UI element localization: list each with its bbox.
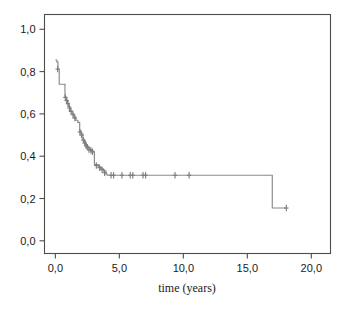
kaplan-meier-plot: 0,05,010,015,020,0 0,00,20,40,60,81,0 ti… — [0, 0, 346, 310]
y-tick-label: 0,2 — [20, 193, 35, 205]
x-axis-tick-labels: 0,05,010,015,020,0 — [48, 262, 322, 274]
y-tick-label: 0,8 — [20, 66, 35, 78]
survival-chart-figure: 0,05,010,015,020,0 0,00,20,40,60,81,0 ti… — [0, 0, 346, 310]
y-tick-label: 0,6 — [20, 108, 35, 120]
x-axis-title: time (years) — [158, 281, 216, 295]
x-tick-label: 0,0 — [48, 262, 63, 274]
plot-frame — [45, 15, 331, 254]
y-axis-ticks — [40, 29, 45, 241]
survival-step-curve — [55, 60, 287, 208]
y-axis-tick-labels: 0,00,20,40,60,81,0 — [20, 23, 35, 247]
x-axis-ticks — [55, 254, 311, 259]
x-tick-label: 20,0 — [301, 262, 322, 274]
y-tick-label: 0,0 — [20, 235, 35, 247]
y-tick-label: 0,4 — [20, 150, 35, 162]
x-tick-label: 5,0 — [112, 262, 127, 274]
x-tick-label: 10,0 — [173, 262, 194, 274]
y-tick-label: 1,0 — [20, 23, 35, 35]
censoring-marks — [55, 66, 288, 211]
x-tick-label: 15,0 — [237, 262, 258, 274]
